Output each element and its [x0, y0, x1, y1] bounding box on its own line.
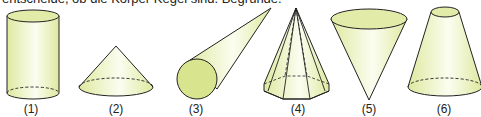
figure-label-3: (3): [189, 102, 204, 116]
figures-canvas: [0, 0, 481, 117]
lying-cone-figure: [177, 8, 271, 99]
figure-label-2: (2): [109, 102, 124, 116]
cylinder-figure: [7, 10, 59, 99]
figure-label-1: (1): [24, 102, 39, 116]
cone-figure: [79, 46, 153, 96]
inverted-cone-figure: [331, 9, 407, 100]
octagonal-pyramid-figure: [264, 8, 329, 99]
figure-label-5: (5): [362, 102, 377, 116]
truncated-cone-figure: [408, 7, 481, 96]
figure-label-6: (6): [437, 102, 452, 116]
figure-label-4: (4): [291, 102, 306, 116]
